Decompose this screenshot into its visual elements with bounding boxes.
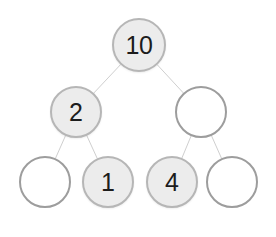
tree-diagram-canvas: 10214 [0,0,276,237]
tree-node-right-left[interactable]: 4 [146,156,198,208]
tree-node-left-child[interactable]: 2 [50,86,102,138]
tree-node-layer: 10214 [0,0,276,237]
tree-node-left-left[interactable] [19,156,71,208]
tree-node-left-right[interactable]: 1 [82,156,134,208]
tree-node-right-child[interactable] [175,86,227,138]
tree-node-root[interactable]: 10 [112,18,166,72]
tree-node-label: 2 [69,99,83,124]
tree-node-right-right[interactable] [206,156,258,208]
tree-node-label: 4 [165,169,179,194]
tree-node-label: 10 [126,32,153,57]
tree-node-label: 1 [101,169,115,194]
